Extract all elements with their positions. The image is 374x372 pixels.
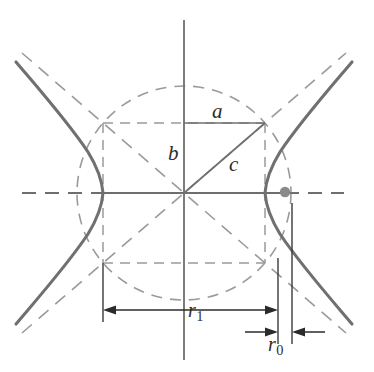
label-radius-r0: r0 xyxy=(268,334,284,357)
diagram-canvas xyxy=(0,0,374,372)
segment-c xyxy=(184,123,265,193)
label-radius-r0-main: r xyxy=(268,333,276,355)
hyperbola-figure: a b c r1 r0 xyxy=(0,0,374,372)
label-focal-c: c xyxy=(229,154,238,175)
label-radius-r1: r1 xyxy=(188,300,204,323)
label-radius-r1-subscript: 1 xyxy=(196,308,203,324)
focus-dot xyxy=(280,187,290,197)
dimension-arrow-r1-left xyxy=(103,306,116,315)
label-semi-major-a: a xyxy=(212,101,223,122)
label-semi-minor-b: b xyxy=(168,143,179,164)
label-radius-r0-subscript: 0 xyxy=(276,342,283,358)
dimension-arrow-r0-right xyxy=(292,328,305,337)
label-radius-r1-main: r xyxy=(188,299,196,321)
dimension-arrow-r1-right xyxy=(265,306,278,315)
